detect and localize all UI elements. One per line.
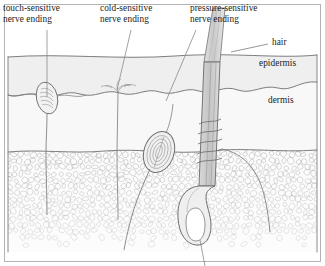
label-touch-sensitive: touch-sensitive nerve ending [3,3,60,24]
hair-papilla [186,208,205,241]
leader-hair [231,44,268,52]
label-epidermis: epidermis [259,58,296,69]
label-hair: hair [272,37,287,48]
label-dermis: dermis [268,95,294,106]
label-pressure-sensitive: pressure-sensitive nerve ending [190,3,258,24]
label-cold-sensitive: cold-sensitive nerve ending [100,3,152,24]
skin-cross-section-diagram: touch-sensitive nerve ending cold-sensit… [0,0,325,266]
